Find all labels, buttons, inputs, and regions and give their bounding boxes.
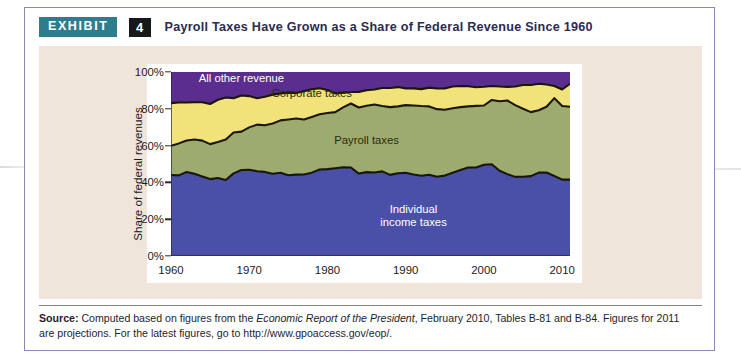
- source-label: Source:: [39, 312, 78, 324]
- chart-panel: Share of federal revenues 0%20%40%60%80%…: [39, 46, 702, 299]
- x-axis-tick-label: 1990: [393, 264, 418, 276]
- x-axis-tick-label: 1960: [158, 264, 183, 276]
- exhibit-number-badge: 4: [129, 18, 151, 37]
- y-axis-tick-label: 100%: [135, 66, 164, 78]
- y-axis-tick-label: 60%: [141, 140, 164, 152]
- exhibit-badge: EXHIBIT: [39, 17, 117, 37]
- x-axis-tick-label: 2010: [550, 264, 575, 276]
- y-axis-tick-label: 80%: [141, 103, 164, 115]
- y-axis-tick-label: 40%: [141, 176, 164, 188]
- y-axis-tick-mark: [165, 108, 171, 109]
- area-band: [171, 164, 570, 256]
- stacked-area-chart: [171, 72, 570, 256]
- exhibit-header: EXHIBIT 4 Payroll Taxes Have Grown as a …: [25, 8, 714, 46]
- source-text-before: Computed based on figures from the: [78, 312, 256, 324]
- exhibit-title: Payroll Taxes Have Grown as a Share of F…: [165, 20, 593, 34]
- x-axis-tick-label: 2000: [471, 264, 496, 276]
- y-axis-tick-mark: [165, 182, 171, 183]
- y-axis-tick-mark: [165, 255, 171, 256]
- source-publication: Economic Report of the President: [256, 312, 414, 324]
- source-divider: [39, 305, 702, 306]
- chart-plot-area: 0%20%40%60%80%100%1960197019801990200020…: [171, 72, 570, 256]
- x-axis-tick-label: 1980: [315, 264, 340, 276]
- y-axis-tick-label: 0%: [148, 250, 164, 262]
- chart-plot-container: Share of federal revenues 0%20%40%60%80%…: [147, 64, 582, 283]
- y-axis-tick-label: 20%: [141, 213, 164, 225]
- source-note: Source: Computed based on figures from t…: [39, 311, 694, 341]
- y-axis-tick-mark: [165, 218, 171, 219]
- y-axis-tick-mark: [165, 71, 171, 72]
- exhibit-card: EXHIBIT 4 Payroll Taxes Have Grown as a …: [24, 7, 715, 351]
- x-axis-tick-label: 1970: [237, 264, 262, 276]
- y-axis-tick-mark: [165, 145, 171, 146]
